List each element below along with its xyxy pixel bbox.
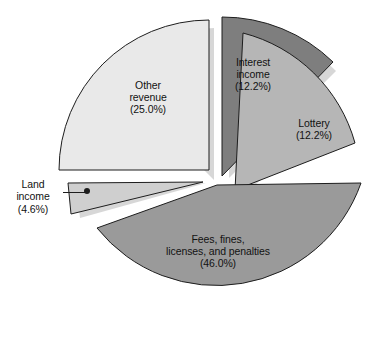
lottery-label-line1: Lottery <box>276 117 352 129</box>
fees-value: (46.0%) <box>130 257 306 269</box>
slice-label-interest-income: Interest income (12.2%) <box>216 56 290 93</box>
slice-label-fees-fines-licenses-penalties: Fees, fines, licenses, and penalties (46… <box>130 233 306 270</box>
land-income-label-line1: Land <box>2 178 64 190</box>
other-revenue-label-line1: Other <box>102 79 194 91</box>
slice-label-lottery: Lottery (12.2%) <box>276 117 352 141</box>
slice-label-other-revenue: Other revenue (25.0%) <box>102 79 194 116</box>
other-revenue-value: (25.0%) <box>102 103 194 115</box>
pie-chart-svg <box>0 0 378 340</box>
lottery-value: (12.2%) <box>276 129 352 141</box>
pie-chart: Interest income (12.2%) Lottery (12.2%) … <box>0 0 378 340</box>
interest-income-label-line2: income <box>216 68 290 80</box>
land-income-value: (4.6%) <box>2 203 64 215</box>
fees-label-line2: licenses, and penalties <box>130 245 306 257</box>
fees-label-line1: Fees, fines, <box>130 233 306 245</box>
interest-income-value: (12.2%) <box>216 80 290 92</box>
other-revenue-label-line2: revenue <box>102 91 194 103</box>
interest-income-label-line1: Interest <box>216 56 290 68</box>
slice-label-land-income: Land income (4.6%) <box>2 178 64 215</box>
land-income-leader-dot <box>84 188 90 194</box>
land-income-label-line2: income <box>2 190 64 202</box>
